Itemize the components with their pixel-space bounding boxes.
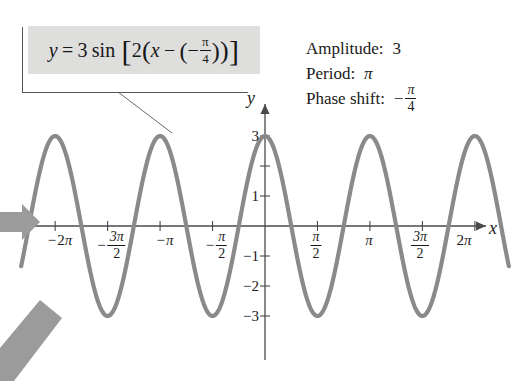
equation-inner-sign: − xyxy=(188,40,199,60)
y-tick-label-1: 1 xyxy=(252,188,260,205)
callout-leader-line xyxy=(118,92,172,133)
annotation-amplitude-label: Amplitude: xyxy=(306,39,383,59)
x-tick-label-pi: π xyxy=(365,232,373,249)
equation-fraction-numerator: π xyxy=(200,35,211,50)
annotation-period-label: Period: xyxy=(306,64,355,84)
annotation-phase-shift-denominator: 4 xyxy=(405,99,416,114)
property-annotations: Amplitude: 3 Period: π Phase shift: − π … xyxy=(306,36,416,111)
equation-fraction-pi-over-4: π 4 xyxy=(200,35,211,65)
annotation-phase-shift-label: Phase shift: xyxy=(306,89,385,109)
y-tick-label-neg-3: −3 xyxy=(243,308,259,325)
annotation-phase-shift-fraction: π 4 xyxy=(405,83,416,115)
equation-expression: y = 3 sin [ 2 ( x − ( − π 4 ) ) ] xyxy=(49,35,239,65)
annotation-phase-shift: Phase shift: − π 4 xyxy=(306,86,416,111)
x-tick-label-neg-2pi: −2π xyxy=(48,232,72,249)
equation-lhs: y xyxy=(49,40,58,60)
annotation-amplitude-value: 3 xyxy=(392,39,401,59)
annotation-phase-shift-value: − π 4 xyxy=(394,83,417,115)
equation-variable: x xyxy=(151,40,160,60)
callout-bracket-horizontal xyxy=(22,92,248,93)
callout-bracket-vertical xyxy=(22,27,23,93)
equation-minus-sign: − xyxy=(164,40,175,60)
y-tick-label-neg-1: −1 xyxy=(243,248,259,265)
equation-amplitude-coefficient: 3 xyxy=(77,40,87,60)
x-tick-label-3pi-over-2: 3π 2 xyxy=(410,230,430,262)
y-tick-label-3: 3 xyxy=(252,128,260,145)
y-axis-arrowhead xyxy=(261,104,270,114)
equation-fraction-denominator: 4 xyxy=(200,51,211,65)
annotation-amplitude: Amplitude: 3 xyxy=(306,36,416,61)
math-figure: y = 3 sin [ 2 ( x − ( − π 4 ) ) ] xyxy=(0,0,517,381)
y-axis-name: y xyxy=(247,88,255,109)
x-tick-label-neg-pi-over-2: − π 2 xyxy=(206,230,228,262)
equation-callout: y = 3 sin [ 2 ( x − ( − π 4 ) ) ] xyxy=(28,26,260,74)
annotation-phase-shift-sign: − xyxy=(394,89,404,109)
y-tick-label-neg-2: −2 xyxy=(243,278,259,295)
x-tick-label-pi-over-2: π 2 xyxy=(309,230,322,262)
x-axis-name: x xyxy=(489,218,497,239)
annotation-period-value: π xyxy=(364,64,373,84)
x-tick-label-neg-pi: −π xyxy=(157,232,174,249)
diagonal-pointer-arrow xyxy=(0,300,62,381)
equation-b-coefficient: 2 xyxy=(132,40,142,60)
y-axis xyxy=(261,104,270,360)
x-axis-arrowhead xyxy=(476,222,486,231)
x-tick-label-2pi: 2π xyxy=(456,232,471,249)
equation-function-name: sin xyxy=(92,40,116,60)
x-tick-label-neg-3pi-over-2: − 3π 2 xyxy=(97,230,126,262)
annotation-phase-shift-numerator: π xyxy=(405,83,416,99)
equation-equals: = xyxy=(62,40,73,60)
